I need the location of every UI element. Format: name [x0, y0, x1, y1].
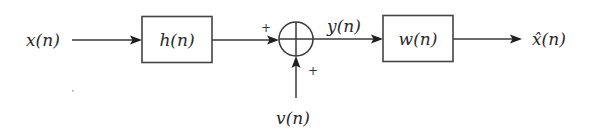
intermediate-signal-label: y(n)	[326, 16, 361, 36]
output-signal-label: x̂(n)	[532, 29, 566, 49]
arrow-w-to-output	[453, 35, 522, 44]
arrow-h-to-sum	[212, 36, 279, 45]
noise-signal-label: v(n)	[276, 108, 310, 128]
block-w: w(n)	[383, 16, 453, 62]
summing-junction	[279, 22, 313, 56]
block-h-label: h(n)	[159, 30, 194, 50]
input-signal-label: x(n)	[26, 30, 60, 50]
plus-sign-left: +	[261, 21, 271, 35]
speck	[72, 90, 74, 92]
arrow-input-to-h	[72, 36, 142, 45]
plus-sign-bottom: +	[308, 64, 318, 78]
block-h: h(n)	[142, 17, 212, 63]
block-diagram: x(n) h(n) + + v(n) y(n) w(n)	[0, 0, 597, 133]
block-w-label: w(n)	[399, 29, 438, 49]
arrow-noise-to-sum	[292, 56, 301, 98]
